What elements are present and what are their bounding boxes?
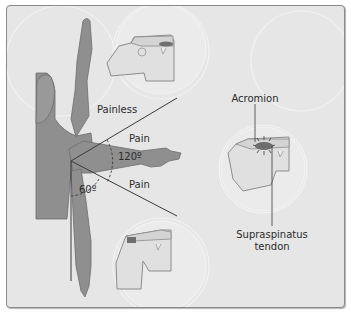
shoulder-right-inset	[221, 104, 305, 226]
painful-arc-illustration	[7, 6, 344, 307]
shoulder-bottom-inset	[116, 221, 206, 307]
label-pain-upper: Pain	[129, 133, 150, 144]
label-tendon: tendon	[254, 241, 289, 252]
label-angle-120: 120º	[118, 151, 142, 162]
diagram-frame: Painless Pain 120º Pain 60º Acromion Sup…	[6, 5, 345, 308]
shoulder-top-inset	[107, 6, 206, 94]
label-pain-lower: Pain	[129, 179, 150, 190]
label-painless: Painless	[97, 104, 137, 115]
label-angle-60: 60º	[79, 184, 96, 195]
label-acromion: Acromion	[231, 93, 278, 104]
label-supraspinatus: Supraspinatus	[236, 229, 308, 240]
